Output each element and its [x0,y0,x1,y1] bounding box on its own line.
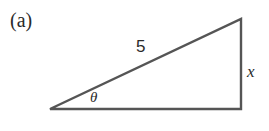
hypotenuse-label: 5 [136,38,145,55]
panel-label: (a) [10,10,32,30]
right-triangle [50,19,241,109]
angle-label: θ [90,90,97,105]
triangle-drawing [0,0,269,131]
right-triangle-figure: (a) 5 x θ [0,0,269,131]
opposite-side-label: x [247,63,255,80]
